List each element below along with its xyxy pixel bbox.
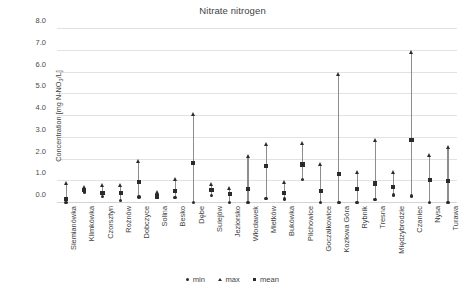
marker-min: [410, 194, 413, 197]
y-axis-label: Concentration [mg N-NO3/L]: [54, 70, 63, 162]
y-tick-label: 3.0: [20, 125, 46, 134]
gridline: [57, 202, 457, 203]
x-tick-label: Włocławek: [251, 206, 260, 241]
marker-min: [355, 201, 358, 204]
y-tick-label: 5.0: [20, 81, 46, 90]
gridline: [57, 115, 457, 116]
marker-min: [101, 195, 104, 198]
x-tick-label: Czaniec: [415, 206, 424, 233]
legend-item-max[interactable]: max: [218, 275, 240, 284]
x-tick-label: Dobczyce: [142, 206, 151, 238]
x-axis-labels: SiemianówkaKlimkówkaCzorsztynRożnówDobcz…: [57, 206, 457, 268]
triangle-icon: [218, 278, 222, 281]
marker-mean: [264, 164, 268, 168]
gridline: [57, 50, 457, 51]
marker-min: [319, 201, 322, 204]
y-tick-label: 7.0: [20, 38, 46, 47]
range-line: [411, 53, 412, 196]
x-tick-label: Jeziorsko: [233, 206, 242, 237]
nitrate-nitrogen-chart: Nitrate nitrogen 0.01.02.03.04.05.06.07.…: [0, 0, 465, 300]
marker-mean: [282, 191, 286, 195]
range-line: [193, 115, 194, 203]
range-line: [393, 173, 394, 195]
x-tick-label: Bukówka: [287, 206, 296, 236]
marker-min: [337, 201, 340, 204]
x-tick-label: Solina: [160, 206, 169, 227]
marker-max: [191, 112, 195, 116]
marker-max: [64, 181, 68, 185]
marker-max: [355, 170, 359, 174]
x-tick-label: Goczałkowice: [324, 206, 333, 252]
marker-max: [155, 190, 159, 194]
marker-max: [100, 183, 104, 187]
x-tick-label: Sulejów: [215, 206, 224, 232]
marker-mean: [119, 191, 123, 195]
marker-max: [118, 183, 122, 187]
marker-mean: [64, 197, 68, 201]
marker-mean: [319, 189, 323, 193]
y-tick-label: 4.0: [20, 103, 46, 112]
y-tick-label: 8.0: [20, 16, 46, 25]
gridline: [57, 93, 457, 94]
marker-max: [300, 141, 304, 145]
x-tick-label: Klimkówka: [87, 206, 96, 241]
marker-mean: [100, 191, 104, 195]
range-line: [320, 165, 321, 203]
legend-label: mean: [260, 275, 279, 284]
x-tick-label: Czorsztyn: [106, 206, 115, 239]
marker-max: [209, 182, 213, 186]
marker-mean: [355, 187, 359, 191]
marker-max: [336, 72, 340, 76]
y-tick-label: 1.0: [20, 168, 46, 177]
marker-mean: [209, 188, 213, 192]
range-line: [375, 141, 376, 200]
circle-icon: [186, 278, 189, 281]
x-tick-label: Siemianówka: [69, 206, 78, 250]
marker-mean: [246, 187, 250, 191]
marker-max: [136, 159, 140, 163]
marker-max: [264, 142, 268, 146]
marker-min: [283, 197, 286, 200]
marker-mean: [228, 192, 232, 196]
x-tick-label: Tresna: [378, 206, 387, 229]
gridline: [57, 180, 457, 181]
marker-min: [192, 201, 195, 204]
legend-item-mean[interactable]: mean: [253, 275, 279, 284]
legend-label: max: [225, 275, 239, 284]
plot-area: 0.01.02.03.04.05.06.07.08.0 Concentratio…: [57, 29, 457, 203]
gridline: [57, 28, 457, 29]
gridline: [57, 72, 457, 73]
x-tick-label: Nysa: [433, 206, 442, 223]
x-tick-label: Pilchowice: [306, 206, 315, 241]
square-icon: [253, 278, 257, 282]
marker-max: [227, 186, 231, 190]
marker-min: [392, 193, 395, 196]
x-tick-label: Rybnik: [360, 206, 369, 229]
marker-max: [446, 145, 450, 149]
y-tick-label: 2.0: [20, 147, 46, 156]
marker-max: [282, 180, 286, 184]
marker-mean: [409, 138, 413, 142]
marker-max: [409, 50, 413, 54]
marker-min: [210, 194, 213, 197]
marker-mean: [428, 178, 432, 182]
y-tick-label: 6.0: [20, 60, 46, 69]
marker-max: [427, 153, 431, 157]
legend-item-min[interactable]: min: [186, 275, 205, 284]
y-tick-label: 0.0: [20, 190, 46, 199]
marker-min: [373, 198, 376, 201]
x-tick-label: Turawa: [451, 206, 460, 230]
range-line: [447, 148, 448, 203]
x-tick-label: Rożnów: [124, 206, 133, 233]
x-tick-label: Besko: [178, 206, 187, 227]
marker-mean: [337, 172, 341, 176]
marker-mean: [137, 180, 141, 184]
marker-min: [246, 201, 249, 204]
marker-max: [173, 177, 177, 181]
range-line: [338, 75, 339, 203]
x-tick-label: Dębe: [197, 206, 206, 224]
legend-label: min: [193, 275, 205, 284]
range-line: [266, 145, 267, 199]
marker-mean: [391, 185, 395, 189]
marker-mean: [300, 162, 304, 166]
